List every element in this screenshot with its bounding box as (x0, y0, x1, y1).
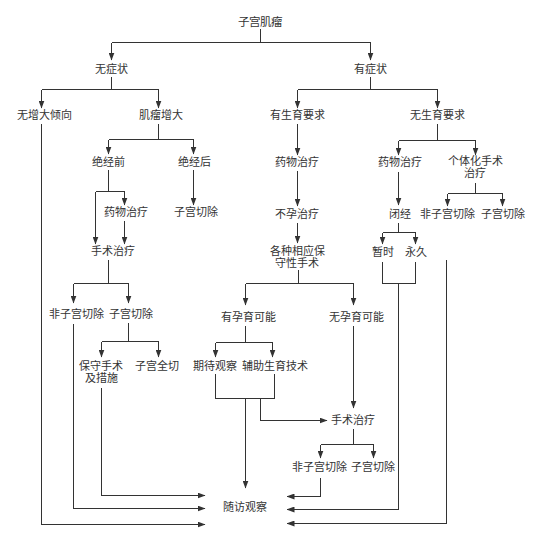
flowchart-canvas: 子宫肌瘤 无症状 有症状 无增大倾向 肌瘤增大 绝经前 绝经后 药物治疗 子宫切… (0, 0, 541, 543)
node-follow-up: 随访观察 (223, 502, 267, 514)
node-asymptomatic: 无症状 (95, 64, 128, 76)
node-drug-therapy-no-fertility: 药物治疗 (378, 157, 422, 169)
node-expectant-observation: 期待观察 (193, 361, 237, 373)
node-fertility-not-desired: 无生育要求 (410, 110, 465, 122)
node-assisted-reproduction: 辅助生育技术 (242, 361, 308, 373)
node-symptomatic: 有症状 (354, 64, 387, 76)
node-fibroid-growth: 肌瘤增大 (139, 110, 183, 122)
connector-bracket (216, 374, 275, 399)
node-drug-therapy-fertility: 药物治疗 (275, 157, 319, 169)
node-hysterectomy-postmeno: 子宫切除 (174, 207, 218, 219)
node-surgery-fertility: 手术治疗 (331, 415, 375, 427)
node-conservative-measures: 保守手术 及措施 (79, 361, 123, 385)
node-non-hysterectomy-no-fertility: 非子宫切除 (420, 209, 475, 221)
node-hysterectomy-premeno: 子宫切除 (109, 309, 153, 321)
node-non-hysterectomy-fertility: 非子宫切除 (292, 462, 347, 474)
node-conservative-surgery: 各种相应保 守性手术 (270, 246, 325, 270)
node-pregnancy-possible: 有孕育可能 (221, 312, 276, 324)
connector-arrow (102, 388, 206, 496)
node-no-growth-tendency: 无增大倾向 (17, 110, 72, 122)
node-line: 守性手术 (270, 258, 325, 270)
node-temporary: 暂时 (372, 247, 394, 259)
node-uterine-fibroid: 子宫肌瘤 (238, 16, 282, 28)
node-surgery-premeno: 手术治疗 (91, 246, 135, 258)
connector-arrow (287, 478, 321, 497)
node-fertility-desired: 有生育要求 (270, 110, 325, 122)
node-amenorrhea: 闭经 (389, 209, 411, 221)
node-individualized-surgery: 个体化手术 治疗 (448, 156, 503, 180)
node-hysterectomy-fertility: 子宫切除 (351, 462, 395, 474)
node-permanent: 永久 (405, 247, 427, 259)
connector-arrow (74, 324, 206, 509)
node-infertility-treatment: 不孕治疗 (275, 209, 319, 221)
node-line: 治疗 (448, 168, 503, 180)
node-premenopausal: 绝经前 (92, 157, 125, 169)
node-drug-therapy-premeno: 药物治疗 (104, 207, 148, 219)
connector-arrow (261, 399, 328, 421)
connector-arrow (42, 124, 206, 525)
connector-arrow (287, 260, 447, 524)
node-line: 及措施 (79, 373, 123, 385)
node-total-hysterectomy: 子宫全切 (135, 361, 179, 373)
node-hysterectomy-no-fertility: 子宫切除 (481, 209, 525, 221)
connector-bracket (383, 262, 416, 284)
node-postmenopausal: 绝经后 (178, 157, 211, 169)
connector-lines (0, 0, 541, 543)
node-pregnancy-impossible: 无孕育可能 (329, 312, 384, 324)
node-non-hysterectomy-premeno: 非子宫切除 (49, 309, 104, 321)
